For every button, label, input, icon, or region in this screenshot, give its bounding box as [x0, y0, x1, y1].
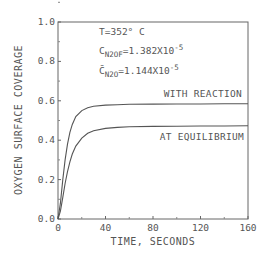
- x-tick-label: 80: [147, 222, 159, 233]
- series-label-at-equilibrium: AT EQUILIBRIUM: [160, 131, 244, 142]
- x-tick-label: 0: [55, 222, 61, 233]
- annotation-temperature: T=352° C: [99, 26, 145, 37]
- y-tick-label: 0.8: [38, 55, 55, 66]
- chart: 0.00.20.40.60.81.0 04080120160 TIME, SEC…: [0, 0, 267, 257]
- x-tick-label: 40: [100, 222, 112, 233]
- annotation-feed-concentration: CN2OF=1.382X10-5: [99, 43, 183, 59]
- annotation-block: T=352° C CN2OF=1.382X10-5 C̄N2O=1.144X10…: [99, 26, 183, 79]
- series-label-with-reaction: WITH REACTION: [164, 88, 242, 99]
- annotation-mean-concentration: C̄N2O=1.144X10-5: [99, 63, 179, 79]
- x-tick-label: 120: [192, 222, 209, 233]
- y-tick-label: 1.0: [38, 16, 55, 27]
- y-tick-label: 0.2: [38, 174, 55, 185]
- x-tick-label: 160: [239, 222, 256, 233]
- curves: [58, 104, 248, 219]
- y-tick-label: 0.0: [38, 213, 55, 224]
- y-tick-label: 0.4: [38, 134, 55, 145]
- curve-with-reaction: [58, 104, 248, 219]
- y-axis-label: OXYGEN SURFACE COVERAGE: [13, 45, 24, 195]
- x-axis-label: TIME, SECONDS: [111, 236, 196, 247]
- y-tick-label: 0.6: [38, 95, 55, 106]
